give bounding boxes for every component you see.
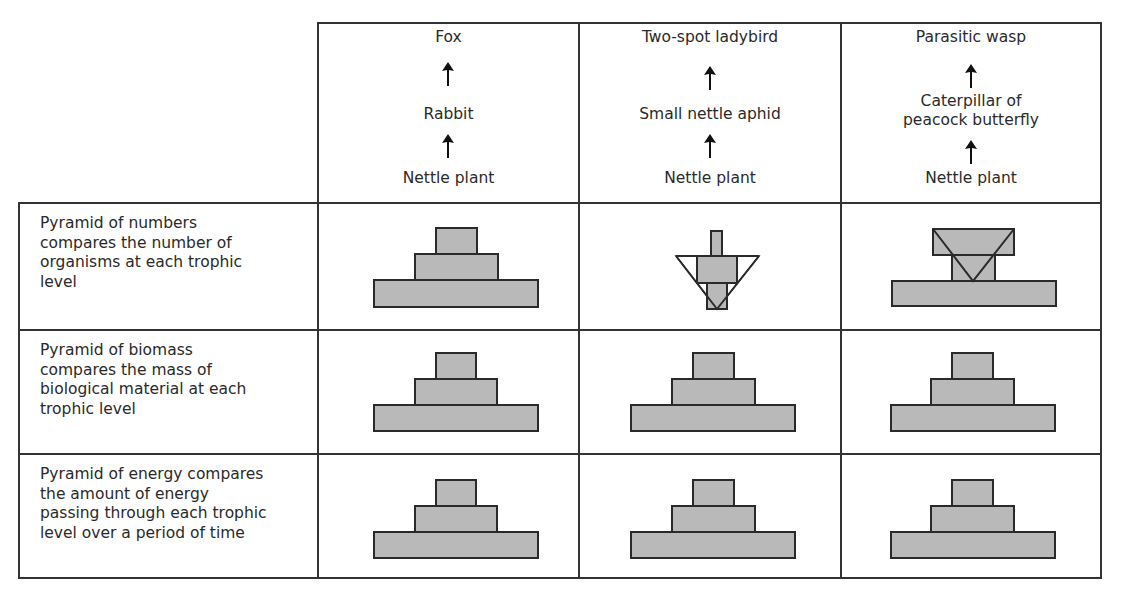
pyramid-energy-wasp xyxy=(0,0,1126,595)
